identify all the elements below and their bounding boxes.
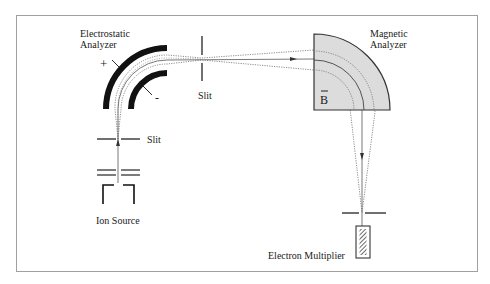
electron-multiplier [356,226,370,258]
label-electron-multiplier: Electron Multiplier [268,250,346,261]
label-minus: - [155,91,159,105]
label-ion-source: Ion Source [96,215,140,226]
beam-arrow-right [290,57,297,61]
label-slit-left: Slit [147,134,161,145]
diagram-frame [17,16,478,272]
label-slit-top: Slit [198,90,212,101]
label-electrostatic-analyzer-1: Electrostatic [80,28,131,39]
minus-leader-line [143,86,152,95]
ion-source [97,170,140,204]
inner-plate-negative [131,73,167,109]
label-magnetic-analyzer-2: Analyzer [370,39,407,50]
label-b-field: B [320,93,328,107]
label-magnetic-analyzer-1: Magnetic [370,28,408,39]
label-plus: + [100,56,107,71]
label-electrostatic-analyzer-2: Analyzer [80,39,117,50]
beam-arrow-up [116,139,120,146]
plus-leader-line [112,60,120,68]
beam-arrow-down [360,153,364,160]
mass-spectrometer-diagram: Electrostatic Analyzer + - Slit Slit Mag… [0,0,490,284]
